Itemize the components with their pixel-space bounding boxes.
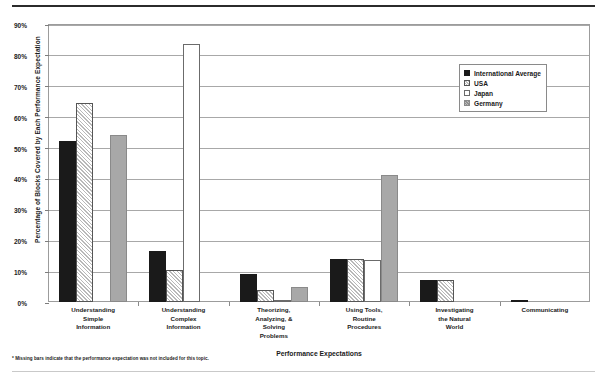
chart-legend: International AverageUSAJapanGermany: [459, 64, 547, 112]
category-label: Investigatingthe NaturalWorld: [409, 306, 499, 340]
bar-usa: [347, 259, 364, 302]
gray-solid-swatch: [464, 100, 470, 106]
bar-usa: [257, 290, 274, 302]
bar-international-average: [330, 259, 347, 302]
legend-item: USA: [464, 78, 541, 88]
category-label-line: Understanding: [50, 306, 136, 315]
legend-item: Germany: [464, 98, 541, 108]
category-label-line: Understanding: [140, 306, 226, 315]
category-label-line: Simple: [50, 315, 136, 324]
legend-item: International Average: [464, 68, 541, 78]
y-tick-label: 60%: [0, 114, 27, 121]
category-label-line: Solving: [231, 323, 317, 332]
bar-group: [48, 24, 138, 302]
bar-japan: [183, 44, 200, 302]
legend-label: USA: [474, 80, 488, 87]
bar-usa: [166, 270, 183, 302]
category-label-line: the Natural: [411, 315, 497, 324]
y-tick-label: 50%: [0, 145, 27, 152]
white-outline-swatch: [464, 90, 470, 96]
legend-label: Japan: [474, 90, 493, 97]
bar-usa: [437, 280, 454, 302]
legend-label: Germany: [474, 100, 503, 107]
y-tick-label: 20%: [0, 238, 27, 245]
category-label-line: Information: [50, 323, 136, 332]
category-label-line: Complex: [140, 315, 226, 324]
bar-group: [229, 24, 319, 302]
bar-germany: [291, 287, 308, 302]
category-label: UnderstandingSimpleInformation: [48, 306, 138, 340]
category-label-line: World: [411, 323, 497, 332]
bar-chart: Percentage of Blocks Covered by Each Per…: [0, 16, 607, 356]
category-label-line: Analyzing, &: [231, 315, 317, 324]
bar-international-average: [59, 141, 76, 302]
category-label-line: Procedures: [321, 323, 407, 332]
y-tick-label: 90%: [0, 22, 27, 29]
white-hatched-swatch: [464, 80, 470, 86]
category-label-line: Investigating: [411, 306, 497, 315]
bar-international-average: [240, 274, 257, 302]
bar-japan: [364, 260, 381, 302]
y-tick-label: 10%: [0, 269, 27, 276]
category-labels: UnderstandingSimpleInformationUnderstand…: [48, 306, 590, 340]
bar-international-average: [149, 251, 166, 302]
category-label-line: Communicating: [502, 306, 588, 315]
category-label-line: Information: [140, 323, 226, 332]
y-tick-label: 40%: [0, 176, 27, 183]
bar-international-average: [420, 280, 437, 302]
category-label: Theorizing,Analyzing, &SolvingProblems: [229, 306, 319, 340]
category-label: Communicating: [500, 306, 590, 340]
bar-germany: [110, 135, 127, 302]
legend-item: Japan: [464, 88, 541, 98]
black-solid-swatch: [464, 70, 470, 76]
y-tick-label: 70%: [0, 83, 27, 90]
bar-usa: [76, 103, 93, 302]
legend-label: International Average: [474, 70, 541, 77]
bar-germany: [381, 175, 398, 302]
bottom-divider-rule: [12, 371, 595, 372]
category-label: UnderstandingComplexInformation: [138, 306, 228, 340]
y-axis-title: Percentage of Blocks Covered by Each Per…: [34, 15, 41, 265]
category-label-line: Routine: [321, 315, 407, 324]
y-tick-label: 30%: [0, 207, 27, 214]
bar-group: [319, 24, 409, 302]
bar-group: [138, 24, 228, 302]
category-label-line: Using Tools,: [321, 306, 407, 315]
category-label-line: Theorizing,: [231, 306, 317, 315]
y-tick-label: 0%: [0, 300, 27, 307]
category-label-line: Problems: [231, 332, 317, 341]
y-tick-label: 80%: [0, 52, 27, 59]
footnote: * Missing bars indicate that the perform…: [12, 356, 209, 361]
category-label: Using Tools,RoutineProcedures: [319, 306, 409, 340]
top-divider-rule: [12, 5, 595, 7]
